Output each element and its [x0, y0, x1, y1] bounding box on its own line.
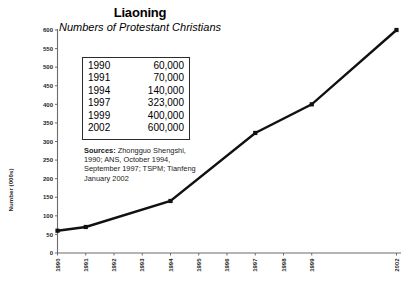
x-tick-label: 1993 — [139, 258, 145, 272]
y-tick-label: 500 — [43, 64, 54, 70]
y-tick-label: 150 — [43, 194, 54, 200]
y-tick-label: 250 — [43, 157, 54, 163]
x-tick-label: 1990 — [55, 258, 61, 272]
x-tick-label: 1992 — [111, 258, 117, 272]
x-tick-label: 1998 — [281, 258, 287, 272]
plot-area: 050100150200250300350400450500550600 199… — [0, 0, 420, 292]
chart-figure: Liaoning Numbers of Protestant Christian… — [0, 0, 420, 292]
y-tick-label: 450 — [43, 83, 54, 89]
y-tick-label: 550 — [43, 46, 54, 52]
series-line — [58, 30, 397, 231]
y-tick-label: 300 — [43, 139, 54, 145]
data-point-marker — [394, 28, 398, 32]
y-tick-label: 350 — [43, 120, 54, 126]
y-tick-label: 600 — [43, 27, 54, 33]
y-tick-label: 0 — [50, 250, 54, 256]
x-axis-ticks: 1990199119921993199419951996199719981999… — [55, 253, 400, 272]
x-tick-label: 2002 — [394, 258, 400, 272]
y-tick-label: 400 — [43, 102, 54, 108]
data-point-marker — [168, 199, 172, 203]
y-tick-label: 100 — [43, 213, 54, 219]
x-tick-label: 1991 — [83, 258, 89, 272]
x-tick-label: 1997 — [252, 258, 258, 272]
data-point-marker — [310, 102, 314, 106]
y-tick-label: 200 — [43, 176, 54, 182]
data-point-marker — [55, 229, 59, 233]
y-axis-title: Number (000s) — [7, 169, 14, 212]
x-tick-label: 1996 — [224, 258, 230, 272]
y-tick-label: 50 — [46, 232, 53, 238]
x-tick-label: 1995 — [196, 258, 202, 272]
data-point-marker — [253, 131, 257, 135]
data-point-marker — [84, 225, 88, 229]
x-tick-label: 1994 — [168, 258, 174, 272]
y-axis-ticks: 050100150200250300350400450500550600 — [43, 27, 58, 256]
series-markers — [55, 28, 398, 233]
x-tick-label: 1999 — [309, 258, 315, 272]
